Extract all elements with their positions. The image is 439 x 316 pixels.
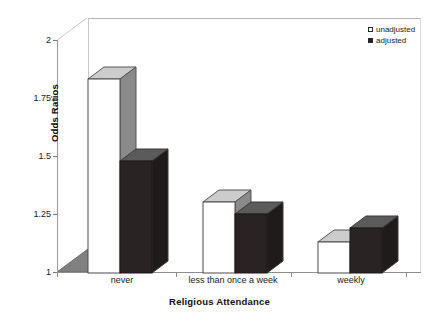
y-tick-label-1-75: 1.75 xyxy=(10,93,51,103)
legend-item-adjusted: adjusted xyxy=(368,35,415,46)
x-tick-mark xyxy=(406,272,407,277)
bar-weekly-unadjusted xyxy=(318,230,350,273)
x-tick-label-never: never xyxy=(77,275,167,285)
x-tick-label-weekly: weekly xyxy=(306,275,396,285)
y-tick-mark xyxy=(53,214,57,215)
chart-container: 2 1.75 1.5 1.25 1 xyxy=(0,0,439,316)
legend-swatch-icon xyxy=(368,27,373,32)
bar-weekly-adjusted xyxy=(350,216,382,273)
legend-label-unadjusted: unadjusted xyxy=(376,24,415,35)
y-tick-mark xyxy=(53,40,57,41)
bar-less-than-once-a-week-unadjusted xyxy=(203,190,235,273)
y-tick-label-1-25: 1.25 xyxy=(10,209,51,219)
legend-swatch-icon xyxy=(368,38,373,43)
y-axis-title: Odds Ratios xyxy=(49,63,63,163)
bar-never-unadjusted xyxy=(88,67,120,273)
axis-depth-connector xyxy=(57,18,90,41)
bar-never-adjusted xyxy=(120,149,152,273)
bar-less-than-once-a-week-adjusted xyxy=(235,202,267,273)
x-axis-title: Religious Attendance xyxy=(0,296,439,307)
y-tick-label-1: 1 xyxy=(10,267,51,277)
y-tick-label-2: 2 xyxy=(10,35,51,45)
y-tick-label-1-5: 1.5 xyxy=(10,151,51,161)
x-tick-mark xyxy=(57,272,58,277)
legend-label-adjusted: adjusted xyxy=(376,35,406,46)
chart-legend: unadjusted adjusted xyxy=(368,24,415,46)
x-tick-label-less-than-once-a-week: less than once a week xyxy=(168,275,298,285)
legend-item-unadjusted: unadjusted xyxy=(368,24,415,35)
